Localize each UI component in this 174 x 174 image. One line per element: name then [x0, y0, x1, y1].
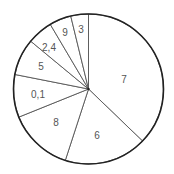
slice-label-8: 8 — [53, 117, 59, 128]
slice-label-6: 6 — [94, 130, 100, 141]
pie-center — [87, 88, 89, 90]
slice-label-5: 5 — [38, 61, 44, 72]
slice-label-2-4: 2,4 — [42, 42, 56, 53]
pie-chart: 7 6 8 0,1 5 2,4 9 3 — [0, 0, 174, 174]
slice-label-7: 7 — [121, 74, 127, 85]
slice-label-9: 9 — [62, 27, 68, 38]
slice-label-0-1: 0,1 — [31, 89, 45, 100]
slice-label-3: 3 — [78, 24, 84, 35]
